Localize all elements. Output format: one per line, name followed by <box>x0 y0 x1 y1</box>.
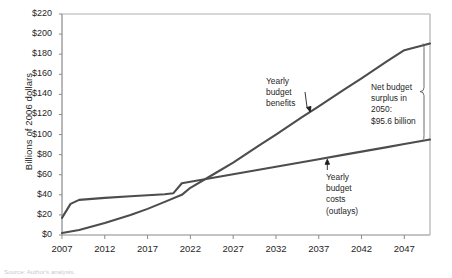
y-tick-label: $160 <box>8 68 52 78</box>
y-tick-label: $0 <box>8 229 52 239</box>
benefits-leader-line <box>305 92 307 108</box>
annotation-line: budget <box>326 183 358 194</box>
x-tick-label: 2007 <box>39 243 85 254</box>
line-chart <box>0 0 452 278</box>
x-tick-label: 2017 <box>125 243 171 254</box>
y-tick-label: $80 <box>8 149 52 159</box>
annotation-line: (outlays) <box>326 206 358 217</box>
annotation-line: surplus in <box>371 93 416 104</box>
annotation-line: 2050: <box>371 104 416 115</box>
series-line-benefits <box>62 44 430 233</box>
y-tick-label: $200 <box>8 28 52 38</box>
annotation-line: costs <box>326 194 358 205</box>
annotation-line: budget <box>266 87 295 98</box>
x-tick-label: 2032 <box>253 243 299 254</box>
annotation-line: Net budget <box>371 82 416 93</box>
y-tick-label: $220 <box>8 8 52 18</box>
x-tick-label: 2047 <box>381 243 427 254</box>
net-surplus-bracket-shape <box>420 44 424 140</box>
annotation-yearly-budget-costs: Yearly budget costs (outlays) <box>326 172 358 217</box>
annotation-line: benefits <box>266 98 295 109</box>
costs-arrow-head <box>325 159 329 164</box>
x-tick-label: 2027 <box>210 243 256 254</box>
x-tick-label: 2037 <box>296 243 342 254</box>
annotation-yearly-budget-benefits: Yearly budget benefits <box>266 76 295 110</box>
benefits-arrow-head <box>307 106 311 112</box>
y-tick-label: $20 <box>8 209 52 219</box>
series-line-costs <box>62 140 430 218</box>
annotation-line: Yearly <box>326 172 358 183</box>
annotation-line: Yearly <box>266 76 295 87</box>
x-tick-label: 2042 <box>339 243 385 254</box>
y-tick-label: $140 <box>8 88 52 98</box>
y-tick-label: $100 <box>8 129 52 139</box>
annotation-line: $95.6 billion <box>371 116 416 127</box>
annotation-net-budget-surplus: Net budget surplus in 2050: $95.6 billio… <box>371 82 416 127</box>
x-tick-label: 2012 <box>82 243 128 254</box>
y-tick-label: $40 <box>8 189 52 199</box>
x-tick-label: 2022 <box>167 243 213 254</box>
figure-container: Billions of 2006 dollars Yearly budget b… <box>0 0 452 278</box>
source-note: Source: Author's analysis. <box>4 268 75 275</box>
y-tick-label: $120 <box>8 108 52 118</box>
y-tick-label: $60 <box>8 169 52 179</box>
y-tick-label: $180 <box>8 48 52 58</box>
